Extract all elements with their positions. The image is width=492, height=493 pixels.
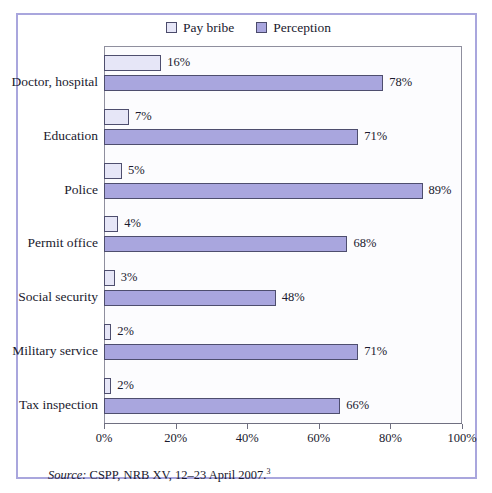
bar-perception xyxy=(104,183,423,199)
bar-value-label: 66% xyxy=(346,398,369,413)
x-axis-tick-label: 40% xyxy=(236,431,259,446)
bar-value-label: 71% xyxy=(364,344,387,359)
x-axis-tick xyxy=(104,424,105,429)
source-text: CSPP, NRB XV, 12–23 April 2007. xyxy=(86,468,266,482)
bar-pay-bribe xyxy=(104,216,118,232)
x-axis-tick-label: 20% xyxy=(164,431,187,446)
x-axis-tick-label: 60% xyxy=(307,431,330,446)
bar-pay-bribe xyxy=(104,378,111,394)
category-label: Police xyxy=(64,182,98,198)
bar-perception xyxy=(104,129,358,145)
source-footnote-marker: 3 xyxy=(266,467,270,476)
bar-value-label: 7% xyxy=(135,109,152,124)
bar-perception xyxy=(104,290,276,306)
category-label: Permit office xyxy=(27,235,98,251)
chart-category-group: 16%78%Doctor, hospital xyxy=(18,46,479,100)
legend-label-perception: Perception xyxy=(273,21,331,35)
bar-pay-bribe xyxy=(104,324,111,340)
category-label: Education xyxy=(43,128,98,144)
legend-label-pay-bribe: Pay bribe xyxy=(183,21,234,35)
bar-pay-bribe xyxy=(104,163,122,179)
legend-entry-pay-bribe: Pay bribe xyxy=(166,21,234,35)
x-axis-tick xyxy=(319,424,320,429)
x-axis-tick xyxy=(176,424,177,429)
bar-perception xyxy=(104,75,383,91)
chart-category-group: 7%71%Education xyxy=(18,100,479,154)
bar-value-label: 3% xyxy=(121,270,138,285)
bar-pay-bribe xyxy=(104,109,129,125)
chart-plot-wrapper: 0%20%40%60%80%100% 16%78%Doctor, hospita… xyxy=(18,46,479,446)
bar-perception xyxy=(104,398,340,414)
source-note: Source: CSPP, NRB XV, 12–23 April 2007.3 xyxy=(48,467,270,483)
bar-pay-bribe xyxy=(104,270,115,286)
bar-value-label: 78% xyxy=(389,75,412,90)
bar-value-label: 2% xyxy=(117,378,134,393)
chart-legend: Pay bribe Perception xyxy=(18,21,479,35)
bar-value-label: 2% xyxy=(117,324,134,339)
category-label: Doctor, hospital xyxy=(12,74,98,90)
x-axis-tick-label: 100% xyxy=(447,431,476,446)
bar-perception xyxy=(104,344,358,360)
bar-value-label: 16% xyxy=(167,55,190,70)
bar-value-label: 68% xyxy=(353,236,376,251)
x-axis-line xyxy=(104,423,462,424)
bar-pay-bribe xyxy=(104,55,161,71)
figure-frame: Pay bribe Perception 0%20%40%60%80%100% … xyxy=(16,13,477,479)
bar-value-label: 89% xyxy=(429,183,452,198)
bar-value-label: 5% xyxy=(128,163,145,178)
chart-category-group: 2%66%Tax inspection xyxy=(18,369,479,423)
legend-swatch-pay-bribe xyxy=(166,22,177,33)
legend-swatch-perception xyxy=(256,22,267,33)
legend-entry-perception: Perception xyxy=(256,21,331,35)
x-axis-tick xyxy=(462,424,463,429)
x-axis-tick-label: 0% xyxy=(96,431,113,446)
chart-category-group: 5%89%Police xyxy=(18,154,479,208)
bar-value-label: 48% xyxy=(282,290,305,305)
chart-category-group: 3%48%Social security xyxy=(18,261,479,315)
x-axis-tick xyxy=(390,424,391,429)
chart-category-group: 2%71%Military service xyxy=(18,315,479,369)
category-label: Military service xyxy=(12,343,98,359)
bar-value-label: 4% xyxy=(124,216,141,231)
x-axis-tick xyxy=(247,424,248,429)
category-label: Tax inspection xyxy=(19,397,98,413)
bar-value-label: 71% xyxy=(364,129,387,144)
category-label: Social security xyxy=(18,289,98,305)
source-label: Source: xyxy=(48,468,86,482)
chart-category-group: 4%68%Permit office xyxy=(18,208,479,262)
x-axis-tick-label: 80% xyxy=(379,431,402,446)
bar-perception xyxy=(104,236,347,252)
